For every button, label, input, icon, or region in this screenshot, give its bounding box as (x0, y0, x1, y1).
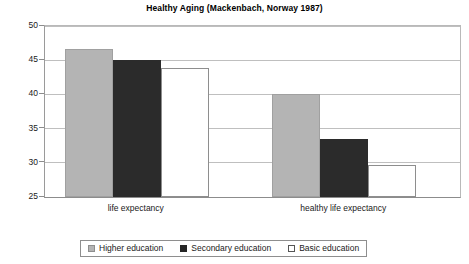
y-tick-label: 40 (8, 88, 38, 98)
legend-label: Basic education (299, 244, 359, 253)
bar-healthy-life-expectancy-secondary-education (320, 139, 368, 197)
legend-swatch-icon (180, 245, 187, 252)
bar-life-expectancy-secondary-education (113, 60, 161, 197)
plot-area (44, 25, 461, 198)
y-tick-label: 50 (8, 20, 38, 30)
y-tick-label: 45 (8, 54, 38, 64)
chart-legend: Higher educationSecondary educationBasic… (80, 240, 367, 257)
gridline-50 (45, 26, 460, 27)
legend-swatch-icon (288, 245, 295, 252)
chart-title: Healthy Aging (Mackenbach, Norway 1987) (0, 3, 469, 13)
legend-item-basic-education[interactable]: Basic education (288, 244, 359, 253)
y-tick-label: 25 (8, 191, 38, 201)
legend-item-higher-education[interactable]: Higher education (88, 244, 163, 253)
x-tick-label: healthy life expectancy (271, 203, 415, 213)
bar-healthy-life-expectancy-higher-education (272, 94, 320, 197)
y-tick-label: 35 (8, 123, 38, 133)
legend-swatch-icon (88, 245, 95, 252)
x-tick-label: life expectancy (64, 203, 208, 213)
bar-chart: Healthy Aging (Mackenbach, Norway 1987) … (0, 0, 469, 264)
y-tick-label: 30 (8, 157, 38, 167)
legend-item-secondary-education[interactable]: Secondary education (180, 244, 271, 253)
bar-healthy-life-expectancy-basic-education (368, 165, 416, 197)
bar-life-expectancy-higher-education (65, 49, 113, 197)
legend-label: Secondary education (191, 244, 271, 253)
legend-label: Higher education (99, 244, 163, 253)
bar-life-expectancy-basic-education (161, 68, 209, 197)
